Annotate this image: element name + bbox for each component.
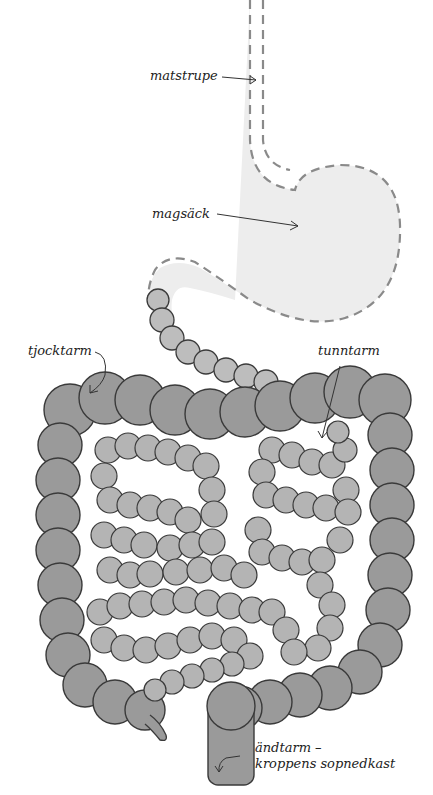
label-small-intestine: tunntarm [318,343,380,359]
digestive-system-illustration: matstrupe magsäck tjocktarm tunntarm änd… [0,0,433,795]
label-rectum-line1: ändtarm – [255,740,322,756]
label-stomach: magsäck [152,206,210,222]
label-large-intestine: tjocktarm [28,343,92,359]
label-rectum-line2: kroppens sopnedkast [255,756,395,772]
label-esophagus: matstrupe [150,68,218,84]
small-intestine [87,421,361,701]
digestive-tract-drawing [0,0,433,795]
stomach-esophagus [148,0,400,340]
